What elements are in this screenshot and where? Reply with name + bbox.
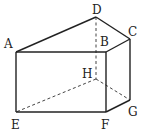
- vertex-label-f: F: [101, 118, 109, 132]
- prism-diagram: A B C D E F G H: [0, 0, 146, 134]
- vertex-label-e: E: [11, 118, 20, 132]
- hidden-edge-hg: [96, 79, 130, 100]
- edge-bc: [106, 39, 130, 52]
- vertex-label-g: G: [128, 105, 138, 119]
- edge-fg: [106, 100, 130, 112]
- vertex-label-a: A: [3, 37, 13, 51]
- vertex-label-h: H: [82, 67, 92, 81]
- vertex-label-d: D: [92, 3, 102, 17]
- hidden-edge-he: [16, 79, 96, 112]
- vertex-label-b: B: [100, 35, 109, 49]
- vertex-label-c: C: [128, 25, 137, 39]
- visible-edges: [16, 17, 130, 112]
- hidden-edges: [16, 17, 130, 112]
- edge-ad: [16, 17, 96, 52]
